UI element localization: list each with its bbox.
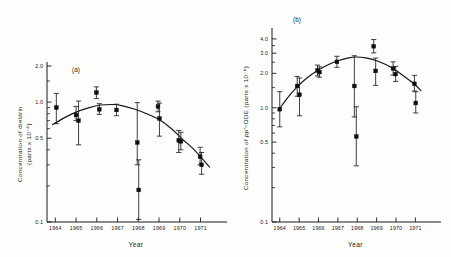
data-point xyxy=(277,92,282,127)
marker-square xyxy=(372,44,376,48)
y-tick-label: 1.0 xyxy=(260,105,268,111)
marker-square xyxy=(335,60,339,64)
marker-square xyxy=(318,70,322,74)
marker-square xyxy=(54,106,58,110)
marker-square xyxy=(298,93,302,97)
y-tick-label: 2.0 xyxy=(35,63,43,69)
panel-label: (b) xyxy=(293,16,301,24)
marker-square xyxy=(200,163,204,167)
marker-square xyxy=(115,108,119,112)
y-tick-label: 4.0 xyxy=(260,36,268,42)
marker-square xyxy=(295,84,299,88)
fitted-curve xyxy=(279,57,421,110)
marker-square xyxy=(179,140,183,144)
x-tick-label: 1971 xyxy=(194,225,206,231)
data-point xyxy=(114,104,119,115)
y-axis-title: Concentration of pp'−DDE (parts x 10⁻⁶) xyxy=(242,66,249,190)
marker-square xyxy=(352,84,356,88)
panel-b: 4.03.02.01.00.50.11964196519661967196819… xyxy=(242,16,441,248)
y-tick-label: 2.0 xyxy=(260,70,268,76)
y-axis-title-pre: Concentration of xyxy=(242,137,249,190)
data-point xyxy=(334,56,339,67)
y-tick-label: 0.5 xyxy=(260,139,268,145)
marker-square xyxy=(137,188,141,192)
y-tick-label: 0.1 xyxy=(35,219,43,225)
marker-square xyxy=(413,82,417,86)
x-tick-label: 1970 xyxy=(390,225,402,231)
x-axis-title: Year xyxy=(348,241,363,248)
y-axis-title-line1: Concentration of dieldrin xyxy=(16,106,23,182)
two-panel-concentration-figure: 2.01.00.50.11964196519661967196819691970… xyxy=(0,0,451,257)
data-point xyxy=(413,92,418,113)
data-point xyxy=(373,58,378,85)
x-tick-label: 1965 xyxy=(70,225,82,231)
data-point xyxy=(73,106,78,120)
marker-square xyxy=(354,135,358,139)
marker-square xyxy=(94,91,98,95)
panel-label: (a) xyxy=(72,66,80,74)
marker-square xyxy=(97,107,101,111)
x-tick-label: 1965 xyxy=(293,225,305,231)
marker-square xyxy=(394,72,398,76)
y-axis-title-italic: pp' xyxy=(242,127,249,138)
marker-square xyxy=(374,69,378,73)
marker-square xyxy=(74,113,78,117)
x-tick-label: 1969 xyxy=(370,225,382,231)
y-tick-label: 0.1 xyxy=(260,219,268,225)
marker-square xyxy=(158,117,162,121)
marker-square xyxy=(391,67,395,71)
x-tick-label: 1968 xyxy=(351,225,363,231)
y-axis-title-post: −DDE (parts x 10⁻⁶) xyxy=(242,66,249,128)
y-tick-label: 0.5 xyxy=(35,135,43,141)
x-axis-title: Year xyxy=(129,241,144,248)
panel-a: 2.01.00.50.11964196519661967196819691970… xyxy=(16,62,227,248)
data-point xyxy=(135,103,140,165)
x-tick-label: 1971 xyxy=(409,225,421,231)
x-tick-label: 1966 xyxy=(91,225,103,231)
data-point xyxy=(136,160,141,220)
marker-square xyxy=(414,101,418,105)
y-tick-label: 3.0 xyxy=(260,50,268,56)
data-point xyxy=(297,78,302,116)
data-point xyxy=(371,40,376,53)
x-tick-label: 1964 xyxy=(49,225,61,231)
data-point xyxy=(76,101,81,145)
data-point xyxy=(94,87,99,99)
marker-square xyxy=(77,119,81,123)
x-tick-label: 1969 xyxy=(153,225,165,231)
x-tick-label: 1967 xyxy=(332,225,344,231)
marker-square xyxy=(278,107,282,111)
x-tick-label: 1967 xyxy=(111,225,123,231)
data-point xyxy=(412,75,417,91)
y-tick-label: 1.0 xyxy=(35,99,43,105)
x-tick-label: 1964 xyxy=(274,225,286,231)
x-tick-label: 1966 xyxy=(312,225,324,231)
marker-square xyxy=(135,141,139,145)
data-point xyxy=(54,93,59,123)
x-tick-label: 1968 xyxy=(132,225,144,231)
figure-container: 2.01.00.50.11964196519661967196819691970… xyxy=(0,0,451,257)
y-axis-title-line2: (parts x 10⁻⁶) xyxy=(25,123,32,165)
x-tick-label: 1970 xyxy=(174,225,186,231)
